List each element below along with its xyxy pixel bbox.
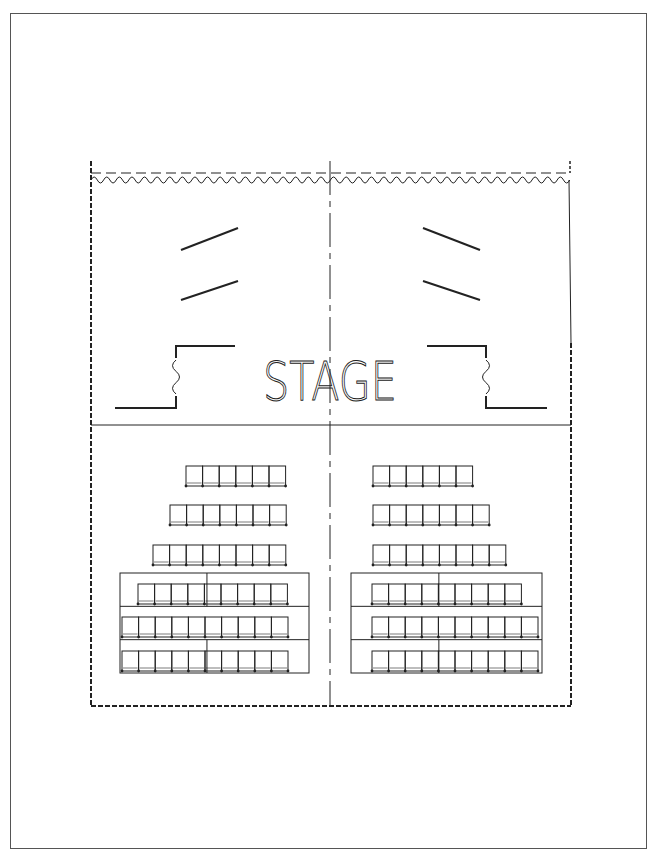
- seat-row: [185, 466, 287, 487]
- seat-leg: [470, 603, 473, 606]
- seat-leg: [270, 670, 273, 673]
- seat-row: [121, 617, 290, 638]
- seat-leg: [253, 670, 256, 673]
- seat-leg: [204, 636, 207, 639]
- seat-leg: [268, 524, 271, 527]
- seat-leg: [169, 524, 172, 527]
- seat-leg: [237, 636, 240, 639]
- seat-leg: [220, 670, 223, 673]
- seating-risers: [120, 573, 542, 673]
- seat-leg: [404, 670, 407, 673]
- seat-leg: [455, 485, 458, 488]
- seat-leg: [269, 603, 272, 606]
- seat-row: [371, 617, 540, 638]
- seat-leg: [372, 564, 375, 567]
- seat-leg: [420, 603, 423, 606]
- seat-leg: [137, 670, 140, 673]
- seat-leg: [437, 670, 440, 673]
- seat-leg: [520, 636, 523, 639]
- seat-leg: [201, 564, 204, 567]
- seat-leg: [218, 564, 221, 567]
- seat-leg: [270, 636, 273, 639]
- seat-leg: [487, 636, 490, 639]
- wing-left-upper: [176, 346, 235, 358]
- seat-row: [372, 505, 491, 526]
- seat-leg: [137, 603, 140, 606]
- seat-leg: [220, 603, 223, 606]
- riser-right: [351, 573, 542, 673]
- seat-leg: [372, 485, 375, 488]
- stage-seating-plan: STAGE: [0, 0, 658, 860]
- seat-leg: [152, 564, 155, 567]
- seat-leg: [153, 603, 156, 606]
- seat-leg: [268, 564, 271, 567]
- seat-leg: [235, 524, 238, 527]
- seat-leg: [388, 564, 391, 567]
- wing-left-lower: [115, 396, 176, 408]
- seat-row: [152, 545, 288, 566]
- seat-leg: [438, 524, 441, 527]
- seat-leg: [504, 564, 507, 567]
- seat-leg: [170, 636, 173, 639]
- seat-row: [121, 651, 290, 672]
- seat-leg: [488, 564, 491, 567]
- seat-leg: [168, 564, 171, 567]
- seat-leg: [405, 564, 408, 567]
- seat-leg: [520, 670, 523, 673]
- seat-leg: [438, 485, 441, 488]
- seat-leg: [455, 564, 458, 567]
- seat-leg: [218, 524, 221, 527]
- seat-leg: [421, 485, 424, 488]
- wing-right-upper: [427, 346, 486, 358]
- seat-leg: [455, 524, 458, 527]
- seat-leg: [268, 485, 271, 488]
- room-walls: [91, 161, 571, 706]
- baffle: [423, 281, 480, 300]
- seat-leg: [218, 485, 221, 488]
- right-wall-stage: [569, 180, 571, 343]
- seat-leg: [520, 603, 523, 606]
- baffle: [181, 281, 238, 300]
- seat-row: [372, 545, 508, 566]
- seat-leg: [287, 670, 290, 673]
- seat-leg: [253, 603, 256, 606]
- seat-leg: [372, 524, 375, 527]
- seat-leg: [186, 603, 189, 606]
- seat-leg: [454, 603, 457, 606]
- seat-leg: [387, 603, 390, 606]
- seat-leg: [420, 670, 423, 673]
- seat-leg: [284, 485, 287, 488]
- seat-leg: [404, 636, 407, 639]
- seat-leg: [202, 524, 205, 527]
- seat-leg: [438, 564, 441, 567]
- seat-leg: [487, 603, 490, 606]
- seat-leg: [454, 670, 457, 673]
- seat-leg: [121, 636, 124, 639]
- seat-leg: [170, 603, 173, 606]
- seat-leg: [471, 564, 474, 567]
- seat-leg: [251, 485, 254, 488]
- wing-left-soft-masking: [173, 360, 180, 394]
- seat-leg: [387, 670, 390, 673]
- seat-leg: [234, 485, 237, 488]
- seat-leg: [154, 636, 157, 639]
- seat-leg: [237, 670, 240, 673]
- seat-leg: [204, 670, 207, 673]
- seat-leg: [253, 636, 256, 639]
- baffle: [181, 228, 238, 250]
- seat-leg: [537, 636, 540, 639]
- seat-leg: [251, 564, 254, 567]
- seat-leg: [137, 636, 140, 639]
- seat-leg: [471, 485, 474, 488]
- seat-leg: [235, 564, 238, 567]
- seat-leg: [405, 524, 408, 527]
- seat-leg: [201, 485, 204, 488]
- seat-leg: [471, 524, 474, 527]
- seat-leg: [203, 603, 206, 606]
- wing-right-lower: [486, 396, 547, 408]
- seat-leg: [470, 636, 473, 639]
- seat-leg: [537, 670, 540, 673]
- seat-leg: [285, 524, 288, 527]
- baffle: [423, 228, 480, 250]
- seat-leg: [421, 524, 424, 527]
